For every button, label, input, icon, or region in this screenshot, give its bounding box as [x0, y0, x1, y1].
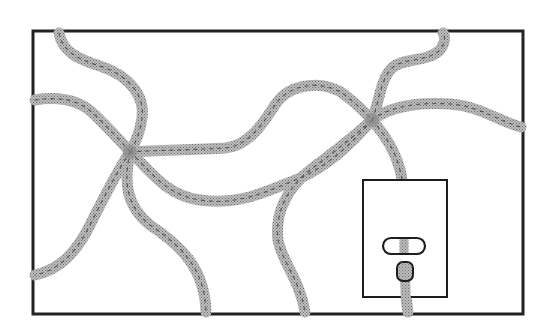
left-knot [123, 145, 137, 159]
plug-icon [397, 262, 413, 281]
wall-outlet [363, 180, 447, 314]
tangled-cords-illustration [0, 0, 560, 330]
right-knot [365, 113, 379, 127]
